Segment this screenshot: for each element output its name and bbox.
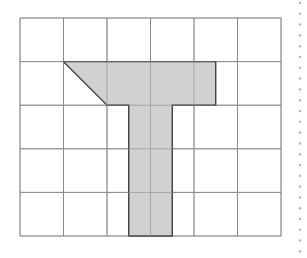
grid-diagram — [0, 0, 307, 258]
grid-lines-overlay — [20, 18, 281, 236]
margin-dots — [299, 2, 302, 253]
